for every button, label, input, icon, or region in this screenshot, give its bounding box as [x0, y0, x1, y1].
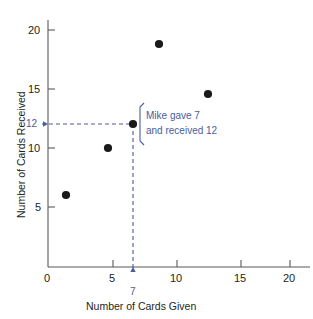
callout-text-line-2: and received 12: [146, 126, 217, 136]
data-point-mike: [129, 120, 137, 128]
data-point: [104, 144, 112, 152]
vertical-guide-arrowhead: [130, 267, 135, 272]
y-axis-ticks: [48, 30, 55, 207]
data-point: [204, 90, 212, 98]
x-tick-label-10: 10: [170, 273, 182, 284]
x-axis-title: Number of Cards Given: [86, 301, 196, 312]
y-tick-label-5: 5: [35, 202, 41, 213]
x-tick-label-20: 20: [283, 273, 295, 284]
callout-text-line-1: Mike gave 7: [146, 111, 200, 121]
y-tick-label-15: 15: [28, 84, 40, 95]
x-tick-label-5: 5: [109, 273, 115, 284]
x-tick-label-0: 0: [44, 273, 50, 284]
y-tick-label-10: 10: [28, 143, 40, 154]
y-tick-label-20: 20: [28, 25, 40, 36]
data-point: [62, 191, 70, 199]
x-axis-ticks: [113, 260, 290, 267]
x-tick-label-15: 15: [234, 273, 246, 284]
highlight-x-value-label: 7: [130, 287, 136, 297]
highlight-y-value-label: 12: [26, 119, 37, 129]
horizontal-guide-arrowhead: [43, 121, 48, 126]
y-axis-title: Number of Cards Received: [16, 91, 27, 218]
scatter-plot-figure: 0 5 10 15 20 5 10 15 20 12 7 Mike gave 7…: [0, 0, 313, 319]
data-point: [155, 40, 163, 48]
callout-bracket: [140, 103, 144, 145]
